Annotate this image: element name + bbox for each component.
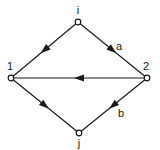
directed-graph-diagram: abi12j xyxy=(0,0,160,150)
node-2 xyxy=(144,75,150,81)
edges-group xyxy=(11,22,147,133)
edge-label: a xyxy=(116,40,123,52)
labels-group: abi12j xyxy=(7,4,149,149)
arrow-icon xyxy=(39,100,49,109)
node-label: 2 xyxy=(143,60,149,72)
node-j xyxy=(76,130,82,136)
node-label: 1 xyxy=(7,60,13,72)
node-i xyxy=(75,19,81,25)
node-label: j xyxy=(77,137,80,149)
node-label: i xyxy=(77,4,79,16)
node-1 xyxy=(8,75,14,81)
graph-svg: abi12j xyxy=(0,0,160,150)
edge-label: b xyxy=(118,107,124,119)
arrow-icon xyxy=(106,44,116,53)
arrow-icon xyxy=(74,75,84,82)
